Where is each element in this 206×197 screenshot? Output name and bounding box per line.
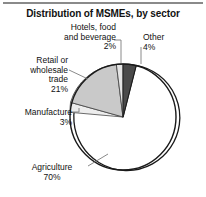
pie-label-hotels-food-and-beverage: Hotels, food and beverage 2% — [28, 23, 116, 52]
leader-line-retail — [69, 70, 88, 79]
pie-label-other: Other 4% — [143, 33, 187, 52]
pie-label-agriculture: Agriculture 70% — [14, 163, 90, 182]
pie-label-manufacture: Manufacture 3% — [0, 108, 72, 127]
pie-label-retail-or-wholesale-trade: Retail or wholesale trade 21% — [2, 56, 68, 94]
chart-figure: Distribution of MSMEs, by sector Hotels,… — [0, 0, 206, 197]
